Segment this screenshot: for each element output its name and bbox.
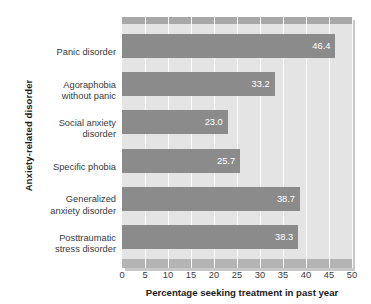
x-tick-label: 30 [255,270,265,280]
x-tick-label: 40 [301,270,311,280]
x-tick-label: 0 [119,270,124,280]
category-label-line: stress disorder [18,244,116,255]
category-label: Posttraumaticstress disorder [18,233,116,256]
category-label-line: Social anxiety [18,118,116,129]
category-label-line: Panic disorder [18,47,116,58]
x-tick-label: 15 [186,270,196,280]
category-label: Social anxietydisorder [18,118,116,141]
category-label-column: Panic disorderAgoraphobiawithout panicSo… [18,24,116,268]
x-tick-label: 20 [209,270,219,280]
category-label: Specific phobia [18,162,116,173]
bar: 25.7 [122,149,240,173]
category-label-line: without panic [18,91,116,102]
x-tick-label: 45 [324,270,334,280]
category-label-line: Posttraumatic [18,233,116,244]
plot-area: 46.433.223.025.738.738.3 [122,17,352,268]
category-label-line: anxiety disorder [18,206,116,217]
bar: 33.2 [122,72,275,96]
gridline [352,17,353,268]
x-tick-label: 5 [142,270,147,280]
category-label: Agoraphobiawithout panic [18,80,116,103]
x-tick-label: 25 [232,270,242,280]
category-label-line: Agoraphobia [18,80,116,91]
bar-value-label: 46.4 [312,41,330,51]
bar-value-label: 38.3 [275,232,293,242]
category-label: Generalizedanxiety disorder [18,194,116,217]
bar-value-label: 23.0 [205,117,223,127]
bar: 23.0 [122,110,228,134]
bar: 46.4 [122,34,335,58]
bar-value-label: 25.7 [217,156,235,166]
bar-chart-figure: Anxiety-related disorder Panic disorderA… [0,0,371,304]
category-label: Panic disorder [18,47,116,58]
bar-value-label: 33.2 [252,79,270,89]
x-axis-title: Percentage seeking treatment in past yea… [122,287,362,298]
x-tick-label: 35 [278,270,288,280]
bar: 38.7 [122,187,300,211]
category-label-line: Specific phobia [18,162,116,173]
bar: 38.3 [122,225,298,249]
bar-value-label: 38.7 [277,194,295,204]
category-label-line: disorder [18,129,116,140]
category-label-line: Generalized [18,194,116,205]
x-tick-label: 50 [347,270,357,280]
x-tick-label: 10 [163,270,173,280]
x-axis-tick-labels: 05101520253035404550 [122,270,352,284]
